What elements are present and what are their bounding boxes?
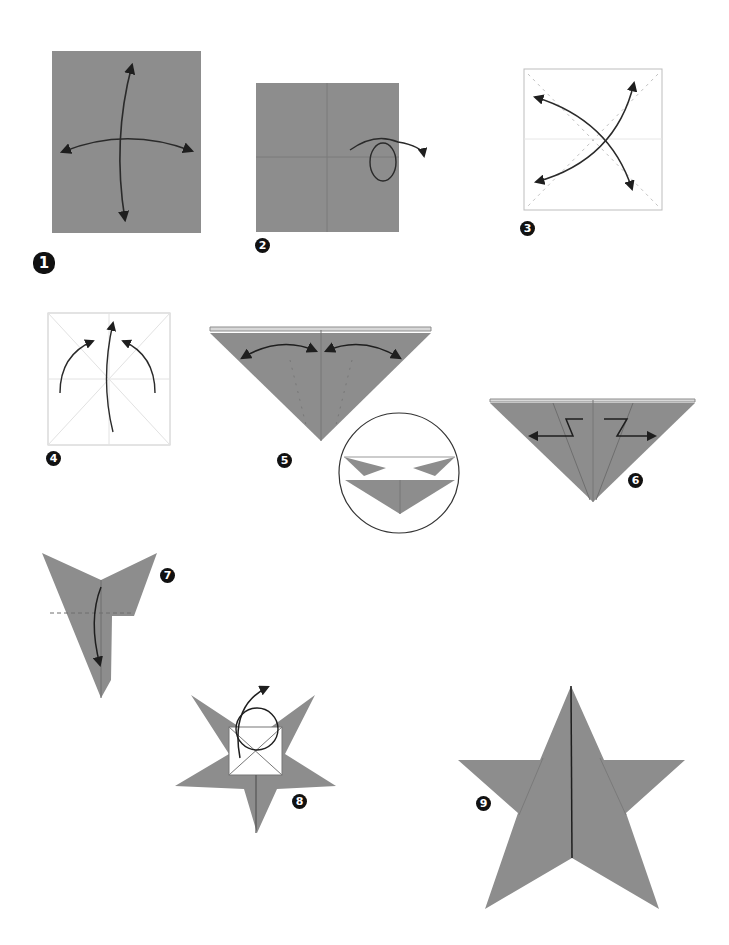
step-5-figure bbox=[210, 327, 459, 533]
step-number-badge: 9 bbox=[476, 796, 491, 811]
step-6-figure bbox=[490, 399, 695, 502]
step-number-badge: 1 bbox=[33, 252, 55, 274]
step-7-figure bbox=[42, 553, 157, 698]
origami-diagram bbox=[0, 0, 729, 945]
step-number-badge: 3 bbox=[520, 221, 535, 236]
step-5-detail-circle bbox=[339, 413, 459, 533]
step-number-badge: 4 bbox=[46, 451, 61, 466]
step-number-badge: 6 bbox=[628, 473, 643, 488]
step-2-figure bbox=[256, 83, 424, 232]
step-number-badge: 2 bbox=[255, 238, 270, 253]
step-4-figure bbox=[48, 313, 170, 445]
step-9-figure bbox=[458, 686, 685, 909]
step-8-figure bbox=[175, 687, 336, 833]
step-number-badge: 8 bbox=[292, 794, 307, 809]
step-number-badge: 5 bbox=[277, 453, 292, 468]
step-number-badge: 7 bbox=[160, 568, 175, 583]
step-1-figure bbox=[52, 51, 201, 233]
step-3-figure bbox=[524, 69, 662, 210]
